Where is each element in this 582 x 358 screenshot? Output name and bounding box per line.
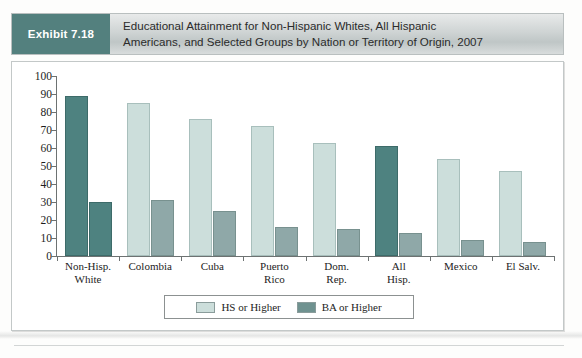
bar-ba [461,240,484,256]
legend-swatch-ba-icon [297,302,316,313]
page-footer-text [18,349,318,357]
x-axis-category-label: AllHisp. [368,260,430,286]
exhibit-title: Educational Attainment for Non-Hispanic … [110,14,563,54]
bar-hs [127,103,150,256]
bar-hs [251,126,274,256]
bar-hs [65,96,88,256]
bar-ba [523,242,546,256]
legend-label-hs: HS or Higher [221,301,280,313]
exhibit-header: Exhibit 7.18 Educational Attainment for … [11,13,564,55]
x-axis-category-label: El Salv. [492,260,554,273]
legend-label-ba: BA or Higher [322,301,382,313]
bar-hs [499,171,522,256]
exhibit-number-tag: Exhibit 7.18 [12,14,110,54]
bar-ba [151,200,174,256]
bar-hs [375,146,398,256]
x-axis-labels: Non-Hisp.WhiteColombiaCubaPuertoRicoDom.… [57,260,554,300]
x-axis-category-label: Dom.Rep. [306,260,368,286]
exhibit-title-line1: Educational Attainment for Non-Hispanic … [123,19,436,32]
page-root: Exhibit 7.18 Educational Attainment for … [0,0,582,358]
bar-series-container [57,76,554,256]
x-axis-category-label: Mexico [430,260,492,273]
chart-legend: HS or Higher BA or Higher [164,295,414,319]
exhibit-title-line2: Americans, and Selected Groups by Nation… [123,35,483,48]
x-axis-category-label: Cuba [181,260,243,273]
legend-item-hs: HS or Higher [196,301,280,313]
bar-ba [213,211,236,256]
scan-artifact-smudge [0,331,582,339]
legend-item-ba: BA or Higher [297,301,382,313]
x-axis-tick [554,256,555,261]
bar-ba [275,227,298,256]
bar-hs [189,119,212,256]
y-axis-tick-label: 100 [35,70,52,82]
bar-hs [437,159,460,256]
bar-ba [399,233,422,256]
chart-frame: 0102030405060708090100 Non-Hisp.WhiteCol… [11,61,564,331]
legend-swatch-hs-icon [196,302,215,313]
x-axis-category-label: Colombia [119,260,181,273]
x-axis-category-label: Non-Hisp.White [57,260,119,286]
plot-area: 0102030405060708090100 Non-Hisp.WhiteCol… [12,62,563,330]
bar-ba [89,202,112,256]
scan-artifact-line [14,345,564,346]
bar-hs [313,143,336,256]
bar-ba [337,229,360,256]
x-axis-category-label: PuertoRico [243,260,305,286]
y-axis-labels: 0102030405060708090100 [20,76,52,256]
